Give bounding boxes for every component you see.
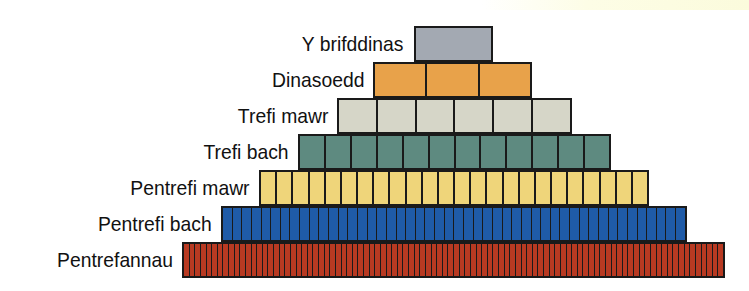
- settlement-cell: [342, 172, 358, 204]
- settlement-cell: [378, 136, 404, 168]
- level-label: Pentrefi mawr: [131, 170, 250, 206]
- settlement-cell: [541, 208, 551, 240]
- settlement-cell: [416, 208, 426, 240]
- settlement-cell: [507, 136, 533, 168]
- settlement-cell: [494, 100, 533, 132]
- settlement-cell: [455, 172, 471, 204]
- settlement-cell: [427, 64, 479, 96]
- settlement-cell: [326, 136, 352, 168]
- settlement-cell: [348, 208, 358, 240]
- settlement-cell: [666, 208, 676, 240]
- settlement-cell: [375, 64, 427, 96]
- settlement-cell: [271, 208, 281, 240]
- settlement-cell: [300, 208, 310, 240]
- level-label: Dinasoedd: [272, 62, 364, 98]
- settlement-cell: [290, 208, 300, 240]
- settlement-cell: [570, 208, 580, 240]
- settlement-cell: [329, 208, 339, 240]
- settlement-cell: [223, 208, 233, 240]
- settlement-cell: [589, 208, 599, 240]
- settlement-cell: [487, 172, 503, 204]
- settlement-cell: [471, 172, 487, 204]
- level-label: Pentrefannau: [57, 242, 173, 278]
- settlement-cell: [536, 172, 552, 204]
- settlement-cell: [474, 208, 484, 240]
- settlement-cell: [339, 100, 378, 132]
- settlement-cell: [520, 172, 536, 204]
- settlement-cell: [456, 136, 482, 168]
- settlement-cell: [435, 208, 445, 240]
- settlement-cell: [455, 100, 494, 132]
- settlement-cell: [252, 208, 262, 240]
- background-tint: [480, 0, 749, 10]
- level-bar: [259, 170, 649, 206]
- settlement-cell: [233, 208, 243, 240]
- level-bar: [298, 134, 611, 170]
- settlement-cell: [352, 136, 378, 168]
- settlement-cell: [417, 100, 456, 132]
- settlement-cell: [439, 172, 455, 204]
- settlement-cell: [647, 208, 657, 240]
- settlement-cell: [300, 136, 326, 168]
- level-label: Y brifddinas: [302, 26, 404, 62]
- settlement-cell: [377, 208, 387, 240]
- settlement-cell: [503, 208, 513, 240]
- settlement-cell: [406, 208, 416, 240]
- settlement-cell: [533, 136, 559, 168]
- settlement-cell: [633, 172, 647, 204]
- settlement-cell: [242, 208, 252, 240]
- settlement-cell: [423, 172, 439, 204]
- settlement-cell: [552, 172, 568, 204]
- settlement-cell: [368, 208, 378, 240]
- level-bar: [221, 206, 687, 242]
- settlement-cell: [585, 136, 609, 168]
- settlement-cell: [584, 172, 600, 204]
- settlement-cell: [533, 100, 570, 132]
- settlement-cell: [293, 172, 309, 204]
- settlement-cell: [339, 208, 349, 240]
- settlement-cell: [374, 172, 390, 204]
- level-label: Trefi mawr: [237, 98, 328, 134]
- settlement-cell: [454, 208, 464, 240]
- settlement-cell: [504, 172, 520, 204]
- settlement-cell: [599, 208, 609, 240]
- settlement-cell: [358, 172, 374, 204]
- settlement-cell: [483, 208, 493, 240]
- settlement-cell: [310, 172, 326, 204]
- settlement-cell: [676, 208, 685, 240]
- settlement-cell: [407, 172, 423, 204]
- level-bar: [414, 26, 493, 62]
- settlement-cell: [638, 208, 648, 240]
- settlement-cell: [609, 208, 619, 240]
- settlement-cell: [425, 208, 435, 240]
- level-label: Pentrefi bach: [98, 206, 212, 242]
- settlement-cell: [480, 64, 530, 96]
- settlement-cell: [580, 208, 590, 240]
- settlement-cell: [390, 172, 406, 204]
- settlement-cell: [568, 172, 584, 204]
- settlement-cell: [430, 136, 456, 168]
- settlement-cell: [601, 172, 617, 204]
- level-bar: [337, 98, 572, 134]
- settlement-cell: [445, 208, 455, 240]
- level-bar: [373, 62, 532, 98]
- settlement-cell: [481, 136, 507, 168]
- settlement-cell: [618, 208, 628, 240]
- settlement-cell: [397, 208, 407, 240]
- settlement-cell: [657, 208, 667, 240]
- settlement-cell: [326, 172, 342, 204]
- settlement-cell: [262, 208, 272, 240]
- settlement-cell: [559, 136, 585, 168]
- settlement-cell: [628, 208, 638, 240]
- settlement-cell: [617, 172, 633, 204]
- level-label: Trefi bach: [204, 134, 289, 170]
- settlement-cell: [358, 208, 368, 240]
- settlement-cell: [319, 208, 329, 240]
- settlement-cell: [551, 208, 561, 240]
- settlement-cell: [416, 28, 491, 60]
- settlement-cell: [718, 244, 723, 276]
- settlement-cell: [310, 208, 320, 240]
- level-bar: [182, 242, 725, 278]
- settlement-cell: [532, 208, 542, 240]
- settlement-cell: [261, 172, 277, 204]
